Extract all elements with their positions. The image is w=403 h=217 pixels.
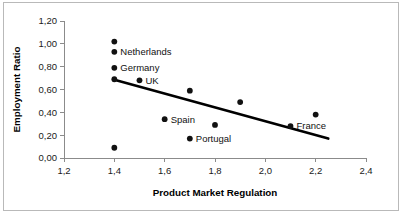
data-point-label: UK [146,75,160,86]
data-point-label: Portugal [196,133,231,144]
x-axis-tick-label: 2,4 [359,165,372,176]
data-point [137,77,143,83]
data-point [237,99,243,105]
y-axis-title: Employment Ratio [11,46,22,132]
y-axis-tick-label: 0,80 [39,61,58,72]
x-axis-tick-label: 2,0 [259,165,272,176]
data-point [288,123,294,129]
x-axis-tick-label: 2,2 [309,165,322,176]
x-axis-tick-label: 1,4 [108,165,121,176]
y-axis-tick-label: 0,20 [39,130,58,141]
data-point [111,39,117,45]
data-point-label: France [297,120,327,131]
x-axis-tick-label: 1,2 [57,165,70,176]
x-axis-tick-label: 1,6 [158,165,171,176]
data-point [111,65,117,71]
data-point [187,136,193,142]
data-point [187,88,193,94]
data-point [111,49,117,55]
data-point [313,112,319,118]
y-axis-tick-label: 1,20 [39,15,58,26]
data-point-label: Germany [120,62,159,73]
data-point-label: Spain [171,114,195,125]
x-axis-tick-label: 1,8 [208,165,221,176]
data-point [212,122,218,128]
data-point [111,76,117,82]
y-axis-tick-label: 1,00 [39,38,58,49]
scatter-plot: 0,000,200,400,600,801,001,201,21,41,61,8… [0,0,403,217]
y-axis-tick-label: 0,60 [39,84,58,95]
x-axis-title: Product Market Regulation [153,187,278,198]
data-point [111,145,117,151]
data-point-label: Netherlands [120,46,171,57]
y-axis-tick-label: 0,00 [39,152,58,163]
y-axis-tick-label: 0,40 [39,107,58,118]
chart-figure: 0,000,200,400,600,801,001,201,21,41,61,8… [0,0,403,217]
data-point [162,116,168,122]
